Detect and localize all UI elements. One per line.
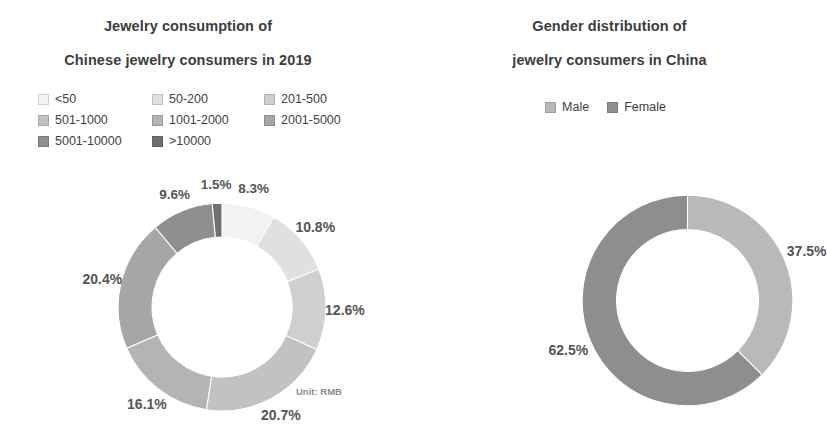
legend-label: 2001-5000 <box>281 113 341 127</box>
right-chart-legend: MaleFemale <box>420 100 791 114</box>
consumption-slice-label: 16.1% <box>127 396 167 412</box>
legend-swatch-icon <box>38 136 49 147</box>
left-chart-title-line2: Chinese jewelry consumers in 2019 <box>0 52 398 68</box>
left-chart-legend-item[interactable]: 1001-2000 <box>152 113 264 127</box>
legend-label: Male <box>562 100 589 114</box>
legend-label: Female <box>624 100 666 114</box>
legend-swatch-icon <box>152 115 163 126</box>
left-chart-legend-item[interactable]: >10000 <box>152 134 264 148</box>
right-chart-legend-item[interactable]: Male <box>545 100 589 114</box>
consumption-slice-label: 8.3% <box>238 181 269 196</box>
left-chart-legend: <5050-200201-500501-10001001-20002001-50… <box>38 92 368 148</box>
gender-distribution-chart-panel: Gender distribution of jewelry consumers… <box>420 0 791 427</box>
right-chart-legend-item[interactable]: Female <box>607 100 666 114</box>
left-chart-legend-item[interactable]: 2001-5000 <box>264 113 374 127</box>
legend-swatch-icon <box>152 136 163 147</box>
legend-swatch-icon <box>545 102 556 113</box>
legend-label: 5001-10000 <box>55 134 122 148</box>
gender-distribution-donut: 37.5%62.5% <box>580 193 795 408</box>
left-chart-legend-item[interactable]: 5001-10000 <box>38 134 152 148</box>
legend-label: 50-200 <box>169 92 208 106</box>
legend-swatch-icon <box>607 102 618 113</box>
left-chart-legend-item[interactable]: 50-200 <box>152 92 264 106</box>
legend-label: >10000 <box>169 134 211 148</box>
jewelry-consumption-chart-panel: Jewelry consumption of Chinese jewelry c… <box>0 0 420 427</box>
consumption-slice-label: 12.6% <box>325 302 365 318</box>
consumption-slice-label: 9.6% <box>159 186 190 201</box>
legend-label: 501-1000 <box>55 113 108 127</box>
gender-slice[interactable] <box>688 195 793 375</box>
consumption-slice[interactable] <box>118 227 177 348</box>
legend-swatch-icon <box>264 115 275 126</box>
legend-swatch-icon <box>152 94 163 105</box>
legend-label: 1001-2000 <box>169 113 229 127</box>
gender-slice-label: 62.5% <box>548 342 588 358</box>
right-chart-title-line2: jewelry consumers in China <box>424 52 795 68</box>
left-chart-legend-item[interactable]: <50 <box>38 92 152 106</box>
right-chart-title-line1: Gender distribution of <box>424 18 795 34</box>
unit-note: Unit: RMB <box>296 386 342 397</box>
legend-label: <50 <box>55 92 76 106</box>
consumption-slice-label: 20.4% <box>83 271 123 287</box>
legend-swatch-icon <box>38 94 49 105</box>
left-chart-title-line1: Jewelry consumption of <box>0 18 398 34</box>
legend-label: 201-500 <box>281 92 327 106</box>
consumption-slice[interactable] <box>206 336 316 411</box>
left-chart-legend-item[interactable]: 201-500 <box>264 92 374 106</box>
legend-swatch-icon <box>264 94 275 105</box>
consumption-slice[interactable] <box>286 269 326 349</box>
jewelry-consumption-donut: 8.3%10.8%12.6%20.7%16.1%20.4%9.6%1.5% <box>116 201 328 413</box>
gender-slice-label: 37.5% <box>787 243 827 259</box>
consumption-slice-label: 10.8% <box>295 219 335 235</box>
left-chart-legend-item[interactable]: 501-1000 <box>38 113 152 127</box>
consumption-slice-label: 20.7% <box>261 407 301 423</box>
consumption-slice-label: 1.5% <box>201 177 232 192</box>
legend-swatch-icon <box>38 115 49 126</box>
